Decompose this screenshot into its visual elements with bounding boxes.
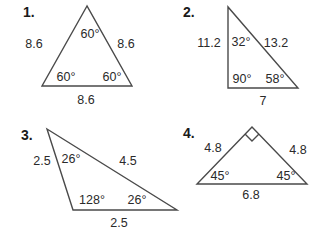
triangle-1-side-left: 8.6 xyxy=(25,37,42,51)
problem-4-number: 4. xyxy=(183,125,195,141)
triangle-3-angle-top: 26° xyxy=(62,152,81,166)
problem-2: 2. 11.2 13.2 7 32° 90° 58° xyxy=(183,4,298,108)
triangle-3-side-left: 2.5 xyxy=(33,154,50,168)
triangle-3-angle-bottom-right: 26° xyxy=(128,193,147,207)
triangle-2-side-bottom: 7 xyxy=(260,94,267,108)
triangle-4-side-left: 4.8 xyxy=(204,141,221,155)
problem-1: 1. 8.6 8.6 8.6 60° 60° 60° xyxy=(23,4,135,107)
triangle-4-angle-bottom-left: 45° xyxy=(211,169,230,183)
triangle-3-side-long: 4.5 xyxy=(119,154,136,168)
triangle-4-side-right: 4.8 xyxy=(289,143,306,157)
triangle-2-angle-top: 32° xyxy=(232,35,251,49)
triangle-4-side-bottom: 6.8 xyxy=(242,188,259,202)
triangle-1-angle-bottom-right: 60° xyxy=(103,70,122,84)
triangle-1-angle-top: 60° xyxy=(81,27,100,41)
triangle-3-side-bottom: 2.5 xyxy=(110,216,127,230)
triangles-diagram: 1. 8.6 8.6 8.6 60° 60° 60° 2. 11.2 13.2 … xyxy=(0,0,325,243)
triangle-1-side-bottom: 8.6 xyxy=(77,93,94,107)
triangle-2-side-left: 11.2 xyxy=(197,36,220,50)
triangle-1-side-right: 8.6 xyxy=(117,37,134,51)
triangle-2-angle-bottom-right: 58° xyxy=(266,72,285,86)
triangle-3 xyxy=(47,129,177,210)
triangle-4-angle-bottom-right: 45° xyxy=(277,169,296,183)
problem-4: 4. 4.8 4.8 6.8 45° 45° xyxy=(183,125,307,202)
triangle-2-angle-bottom-left: 90° xyxy=(233,72,252,86)
problem-3-number: 3. xyxy=(21,127,33,143)
triangle-1-angle-bottom-left: 60° xyxy=(57,70,76,84)
problem-1-number: 1. xyxy=(23,4,35,20)
right-angle-marker-icon xyxy=(245,134,259,141)
triangle-3-angle-bottom-left: 128° xyxy=(79,193,105,207)
triangle-2-side-hypotenuse: 13.2 xyxy=(264,36,288,50)
problem-3: 3. 2.5 4.5 2.5 26° 128° 26° xyxy=(21,127,177,230)
problem-2-number: 2. xyxy=(183,4,195,20)
